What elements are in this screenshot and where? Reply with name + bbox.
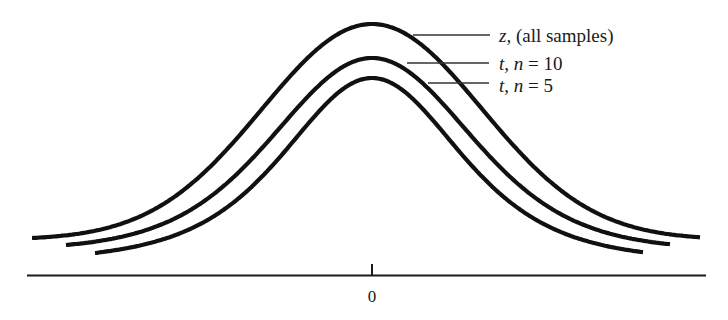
t10-label-n: n [514,53,524,74]
t-n10-curve [66,58,670,245]
t5-label-sep: , [504,75,514,96]
t-n5-curve [95,78,643,253]
zero-tick-label: 0 [368,287,377,306]
z-label: z, (all samples) [498,25,614,47]
diagram-canvas: 0 z, (all samples) t, n = 10 t, n = 5 [0,0,728,320]
t5-label-n: n [514,75,524,96]
t5-label-text: = 5 [523,75,553,96]
t5-label: t, n = 5 [499,75,553,96]
t-vs-z-distribution-diagram: 0 z, (all samples) t, n = 10 t, n = 5 [0,0,728,320]
t10-label-text: = 10 [523,53,562,74]
t10-label-sep: , [504,53,514,74]
z-label-text: , (all samples) [506,25,613,47]
t10-label: t, n = 10 [499,53,563,74]
z-distribution-curve [32,24,700,238]
